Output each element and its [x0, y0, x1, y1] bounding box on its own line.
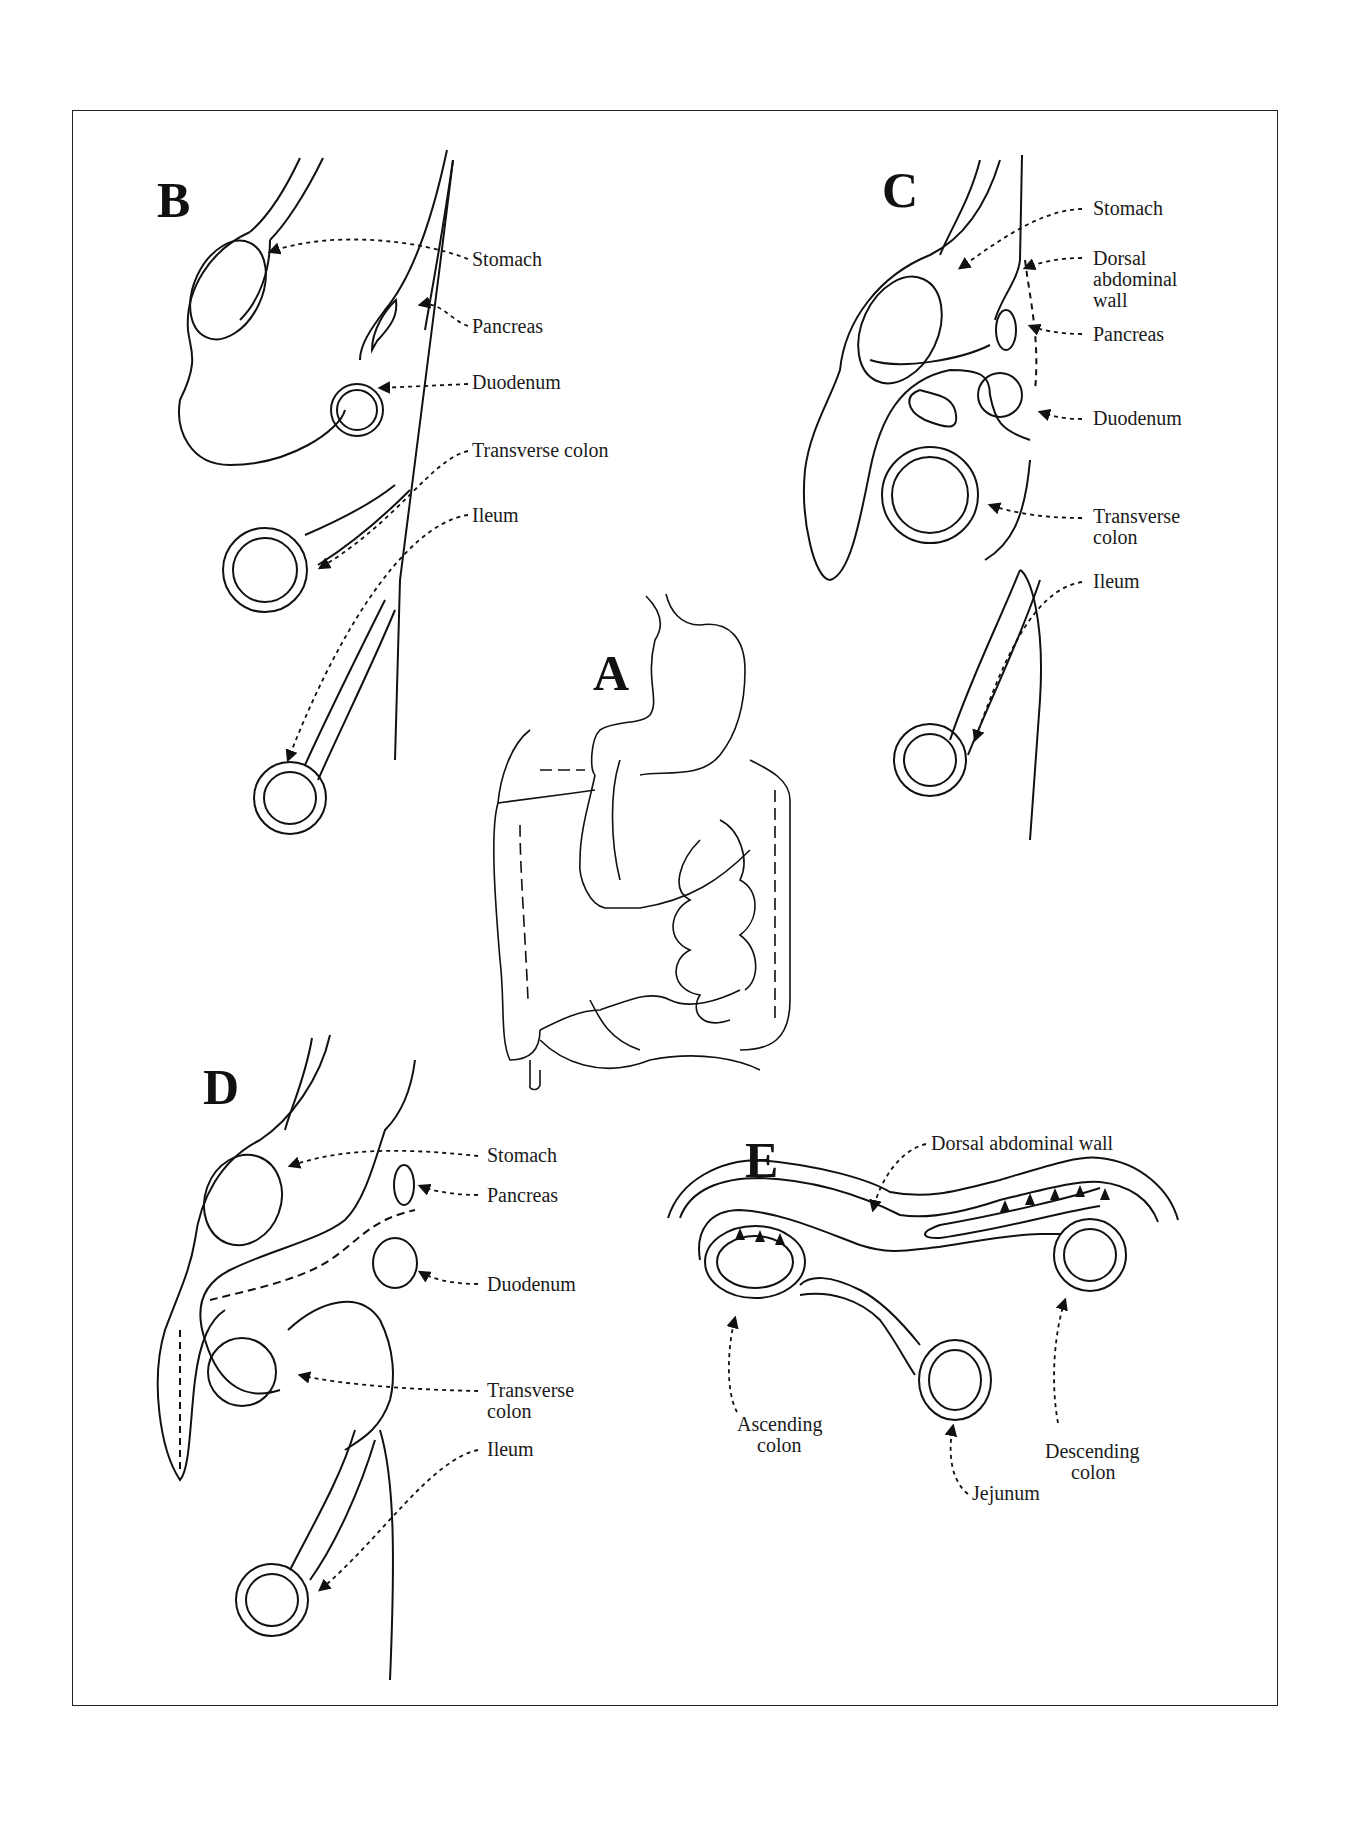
d-label-ileum: Ileum	[487, 1439, 534, 1460]
panel-d-drawing	[158, 1035, 417, 1680]
c-label-pancreas: Pancreas	[1093, 324, 1164, 345]
e-label-ascending-2: colon	[757, 1435, 801, 1456]
c-label-ileum: Ileum	[1093, 571, 1140, 592]
panel-letter-b: B	[157, 175, 190, 225]
b-label-stomach: Stomach	[472, 249, 542, 270]
c-label-dorsal-2: abdominal	[1093, 269, 1177, 290]
panel-a-drawing	[494, 594, 790, 1090]
d-label-transverse-2: colon	[487, 1401, 531, 1422]
d-label-duodenum: Duodenum	[487, 1274, 576, 1295]
b-label-duodenum: Duodenum	[472, 372, 561, 393]
panel-e-drawing	[668, 1157, 1178, 1420]
c-label-transverse-1: Transverse	[1093, 506, 1180, 527]
d-label-pancreas: Pancreas	[487, 1185, 558, 1206]
c-label-dorsal-3: wall	[1093, 290, 1127, 311]
b-label-ileum: Ileum	[472, 505, 519, 526]
panel-letter-e: E	[745, 1135, 778, 1185]
e-label-descending-2: colon	[1071, 1462, 1115, 1483]
d-label-stomach: Stomach	[487, 1145, 557, 1166]
panel-letter-d: D	[203, 1062, 239, 1112]
panel-b-drawing	[175, 150, 453, 834]
c-label-dorsal-1: Dorsal	[1093, 248, 1146, 269]
c-label-stomach: Stomach	[1093, 198, 1163, 219]
panel-b-leaders	[270, 239, 468, 760]
panel-d-leaders	[290, 1151, 478, 1590]
panel-letter-a: A	[593, 648, 629, 698]
e-label-descending-1: Descending	[1045, 1441, 1139, 1462]
c-label-transverse-2: colon	[1093, 527, 1137, 548]
panel-letter-c: C	[882, 165, 918, 215]
b-label-pancreas: Pancreas	[472, 316, 543, 337]
c-label-duodenum: Duodenum	[1093, 408, 1182, 429]
e-label-jejunum: Jejunum	[972, 1483, 1040, 1504]
e-label-dorsal-abdominal-wall: Dorsal abdominal wall	[931, 1133, 1113, 1154]
b-label-transverse-colon: Transverse colon	[472, 440, 608, 461]
d-label-transverse-1: Transverse	[487, 1380, 574, 1401]
e-label-ascending-1: Ascending	[737, 1414, 823, 1435]
panel-c-drawing	[804, 155, 1041, 840]
panel-c-leaders	[960, 209, 1082, 740]
